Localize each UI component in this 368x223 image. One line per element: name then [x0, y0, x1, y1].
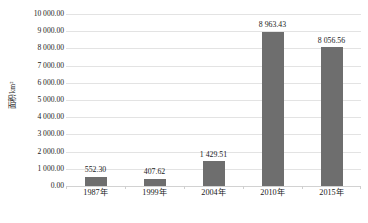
- y-axis-tick-label: 3 000.00: [37, 131, 64, 139]
- plot-area: 552.30407.621 429.518 963.438 056.56: [66, 14, 361, 186]
- bar-value-label: 552.30: [85, 166, 106, 174]
- bar[interactable]: [203, 161, 225, 186]
- y-axis-tick-label: 5 000.00: [37, 96, 64, 104]
- gridline: [66, 186, 361, 187]
- bar-value-label: 1 429.51: [200, 151, 227, 159]
- bar-group[interactable]: 552.30: [66, 14, 125, 186]
- x-axis-tick-label: 1987年: [83, 189, 107, 197]
- bar-group[interactable]: 8 056.56: [302, 14, 361, 186]
- x-axis-tick-label: 2010年: [260, 189, 284, 197]
- bar[interactable]: [321, 47, 343, 186]
- bar-group[interactable]: 407.62: [125, 14, 184, 186]
- y-axis-tick-label: 1 000.00: [37, 165, 64, 173]
- bars-layer: 552.30407.621 429.518 963.438 056.56: [66, 14, 361, 186]
- y-axis-tick-labels: 0.001 000.002 000.003 000.004 000.005 00…: [18, 14, 64, 186]
- bar[interactable]: [144, 179, 166, 186]
- bar-group[interactable]: 1 429.51: [184, 14, 243, 186]
- bar[interactable]: [85, 177, 107, 186]
- bar-value-label: 8 056.56: [318, 37, 345, 45]
- y-axis-title-label: 面积/km²: [7, 81, 18, 109]
- x-axis-tick-label: 1999年: [142, 189, 166, 197]
- bar-value-label: 407.62: [144, 168, 165, 176]
- bar-group[interactable]: 8 963.43: [243, 14, 302, 186]
- y-axis-tick-label: 8 000.00: [37, 45, 64, 53]
- x-axis-tick-label: 2015年: [319, 189, 343, 197]
- y-axis-tick-label: 6 000.00: [37, 79, 64, 87]
- bar-chart: 面积/km² 0.001 000.002 000.003 000.004 000…: [0, 0, 368, 223]
- y-axis-tick-label: 0.00: [51, 182, 64, 190]
- x-axis-tick-labels: 1987年1999年2004年2010年2015年: [66, 189, 361, 205]
- y-axis-tick-label: 7 000.00: [37, 62, 64, 70]
- y-axis-tick-label: 4 000.00: [37, 113, 64, 121]
- bar-value-label: 8 963.43: [259, 21, 286, 29]
- y-axis-tick-label: 2 000.00: [37, 148, 64, 156]
- y-axis-tick-label: 9 000.00: [37, 27, 64, 35]
- x-axis-tick-label: 2004年: [201, 189, 225, 197]
- bar[interactable]: [262, 32, 284, 186]
- y-axis-tick-label: 10 000.00: [34, 10, 64, 18]
